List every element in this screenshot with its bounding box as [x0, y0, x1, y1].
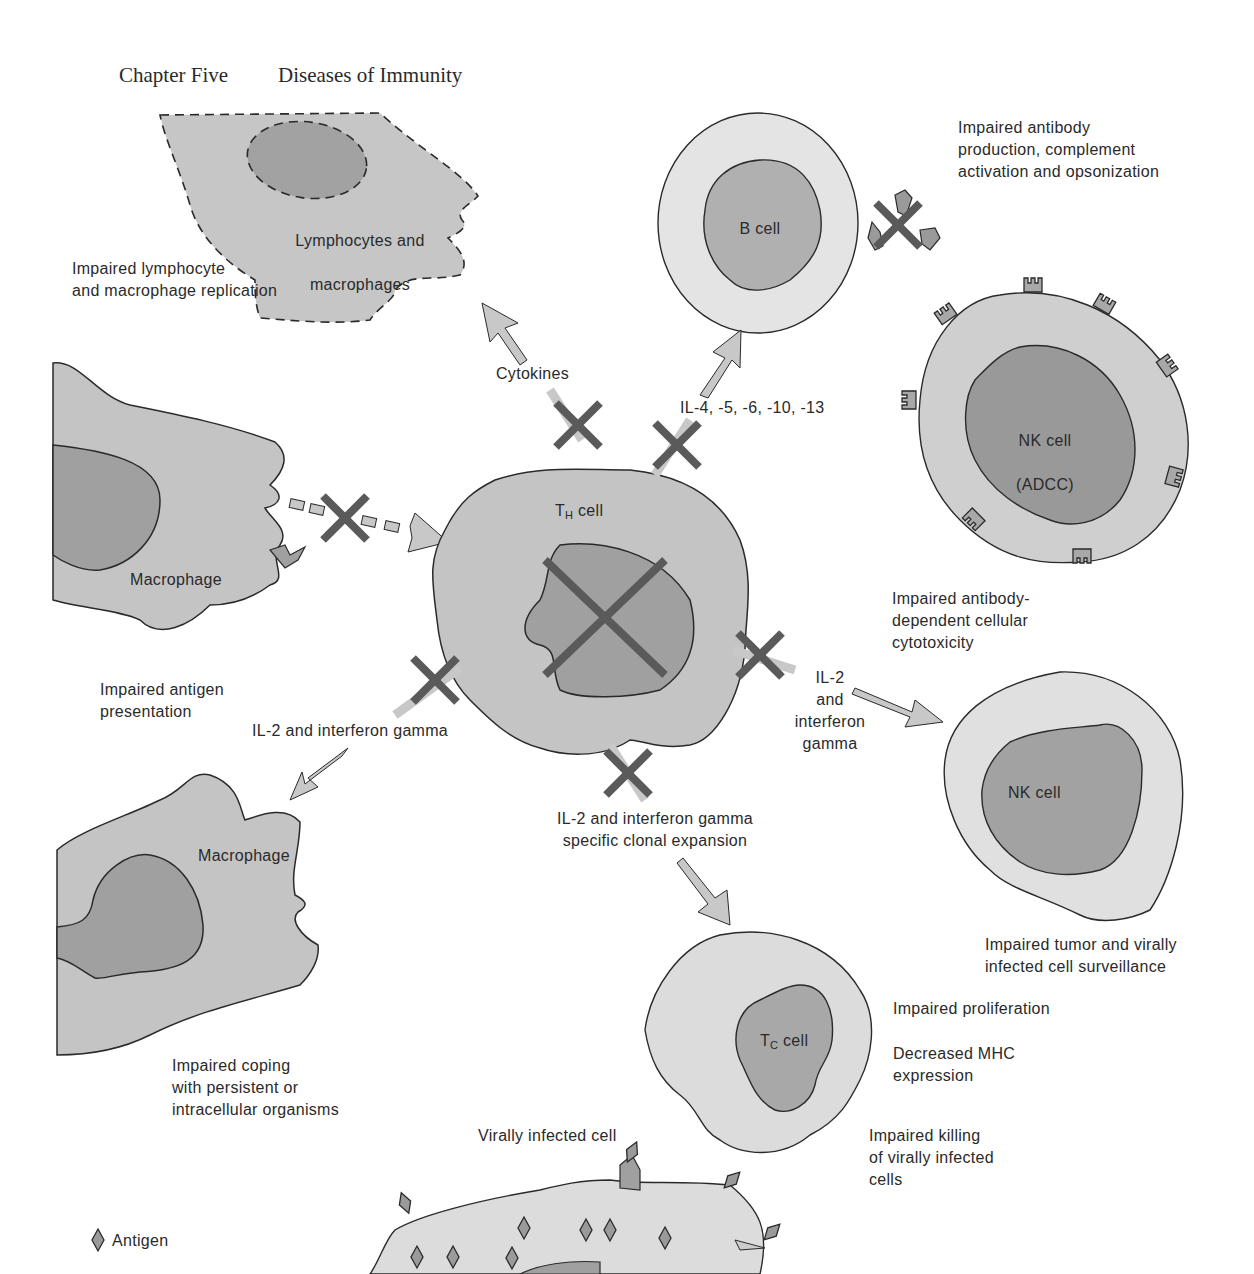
il2-clonal-label: IL-2 and interferon gamma specific clona…	[520, 808, 790, 852]
antigen-legend-label: Antigen	[112, 1230, 168, 1252]
tc-cell-label: TC cell	[760, 1030, 808, 1056]
block-x-icon	[655, 423, 699, 467]
cytokines-label: Cytokines	[496, 363, 569, 385]
nk-cell	[944, 672, 1182, 921]
il2-left-label: IL-2 and interferon gamma	[252, 720, 448, 742]
lymphocytes-label: Lymphocytes and macrophages	[270, 208, 450, 318]
effect-antigen-presentation: Impaired antigen presentation	[100, 679, 224, 723]
block-x-icon	[323, 496, 367, 540]
nk-cell-label: NK cell	[1008, 782, 1061, 804]
macrophage-bottom-label: Macrophage	[198, 845, 290, 867]
macrophage-top-label: Macrophage	[130, 569, 222, 591]
antigen-presentation-arrow	[289, 496, 448, 552]
nk-adcc-label: NK cell (ADCC)	[990, 408, 1100, 518]
il2-right-label: IL-2 and interferon gamma	[780, 667, 880, 755]
effect-lymph-replication: Impaired lymphocyte and macrophage repli…	[72, 258, 277, 302]
macrophage-bottom	[57, 774, 318, 1055]
effect-coping: Impaired coping with persistent or intra…	[172, 1055, 339, 1121]
effect-tumor-surveillance: Impaired tumor and virally infected cell…	[985, 934, 1177, 978]
th-cell-label: TH cell	[555, 500, 603, 526]
tc-cell	[645, 932, 872, 1152]
effect-proliferation: Impaired proliferation	[893, 998, 1050, 1020]
antigen-legend-icon	[92, 1229, 104, 1251]
effect-antibody: Impaired antibody production, complement…	[958, 117, 1159, 183]
chapter-title: Diseases of Immunity	[278, 63, 462, 88]
chapter-label: Chapter Five	[119, 63, 228, 88]
effect-mhc: Decreased MHC expression	[893, 1043, 1015, 1087]
effect-killing: Impaired killing of virally infected cel…	[869, 1125, 994, 1191]
virally-infected-label: Virally infected cell	[478, 1125, 617, 1147]
b-cell-label: B cell	[700, 218, 820, 240]
il4-label: IL-4, -5, -6, -10, -13	[680, 397, 824, 419]
block-x-icon	[606, 751, 650, 795]
antibody-icons	[868, 190, 940, 250]
virally-infected-cell	[370, 1139, 784, 1274]
effect-adcc: Impaired antibody- dependent cellular cy…	[892, 588, 1030, 654]
